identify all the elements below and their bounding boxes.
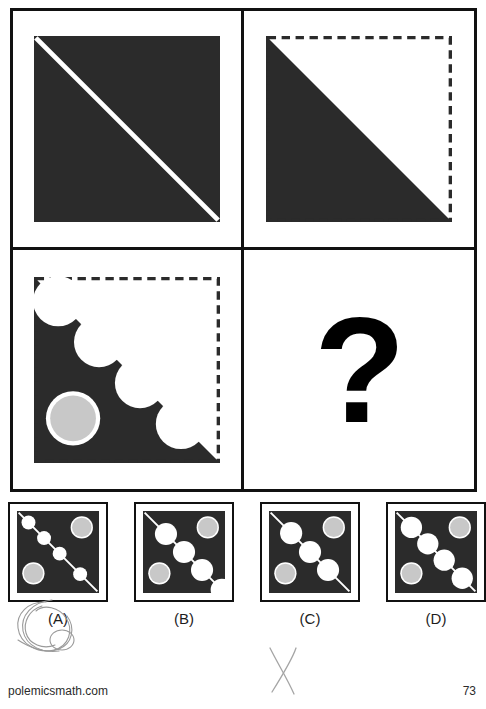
matrix-grid: ? <box>10 8 477 492</box>
option-a-svg <box>17 511 99 593</box>
option-d-svg <box>395 511 477 593</box>
pencil-x-mark <box>258 642 318 698</box>
option-c-svg <box>269 511 351 593</box>
cell-1-svg <box>34 36 220 222</box>
gray-circle-bottom-left <box>150 564 169 583</box>
gray-circle-top-right <box>324 518 343 537</box>
matrix-row-bottom: ? <box>13 250 474 489</box>
white-circle-1 <box>280 522 302 544</box>
white-circle-1 <box>22 516 36 530</box>
white-circle-3 <box>434 550 455 571</box>
matrix-cell-2[interactable] <box>244 11 475 247</box>
option-box-b[interactable] <box>134 502 234 602</box>
white-circle-2 <box>417 533 438 554</box>
white-circle-3 <box>53 547 67 561</box>
cell-2-svg <box>266 36 452 222</box>
gray-circle-top-right <box>198 518 217 537</box>
option-label-c[interactable]: (C) <box>260 610 360 627</box>
figure-black-triangle-dashed-square <box>266 36 452 222</box>
option-b-svg <box>143 511 225 593</box>
white-circle-1 <box>401 517 422 538</box>
white-circle-2 <box>37 531 51 545</box>
option-label-a[interactable]: (A) <box>8 610 108 627</box>
gray-circle-bottom-left <box>402 564 421 583</box>
gray-circle-bottom-left <box>276 564 295 583</box>
gray-circle <box>50 395 96 441</box>
question-mark-glyph: ? <box>314 295 404 445</box>
option-label-d[interactable]: (D) <box>386 610 486 627</box>
option-box-c[interactable] <box>260 502 360 602</box>
black-lower-triangle <box>266 36 452 222</box>
figure-scalloped-triangle-gray-circle <box>34 277 220 463</box>
gray-circle-top-right <box>72 518 91 537</box>
white-circle-3 <box>191 559 213 581</box>
answer-options-row <box>8 502 478 607</box>
option-box-a[interactable] <box>8 502 108 602</box>
answer-option-labels: (A) (B) (C) (D) <box>8 610 478 632</box>
figure-black-square-white-diagonal <box>34 36 220 222</box>
option-box-d[interactable] <box>386 502 486 602</box>
figure-option-b <box>143 511 225 593</box>
figure-option-d <box>395 511 477 593</box>
matrix-cell-3[interactable] <box>13 250 244 489</box>
white-circle-4 <box>452 568 473 589</box>
white-circle-1 <box>155 523 177 545</box>
cell-3-svg <box>34 277 220 463</box>
white-circle-2 <box>299 541 321 563</box>
footer-website[interactable]: polemicsmath.com <box>8 684 108 698</box>
matrix-cell-4-unknown[interactable]: ? <box>244 250 475 489</box>
figure-option-c <box>269 511 351 593</box>
footer-page-number: 73 <box>463 684 476 698</box>
white-circle-4 <box>73 567 87 581</box>
matrix-row-top <box>13 11 474 250</box>
white-circle-2 <box>173 541 195 563</box>
matrix-cell-1[interactable] <box>13 11 244 247</box>
option-label-b[interactable]: (B) <box>134 610 234 627</box>
gray-circle-top-right <box>450 518 469 537</box>
figure-option-a <box>17 511 99 593</box>
white-circle-3 <box>317 559 339 581</box>
gray-circle-bottom-left <box>24 564 43 583</box>
